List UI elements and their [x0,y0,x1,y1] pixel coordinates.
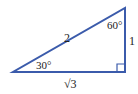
angle-top-label: 60° [107,19,122,31]
horizontal-leg-label: √3 [64,77,77,91]
triangle-diagram: 2 60° 1 30° √3 [0,0,138,94]
right-angle-marker [117,64,125,72]
vertical-leg-label: 1 [129,34,135,48]
hypotenuse-label: 2 [64,31,70,45]
angle-left-label: 30° [36,59,51,71]
